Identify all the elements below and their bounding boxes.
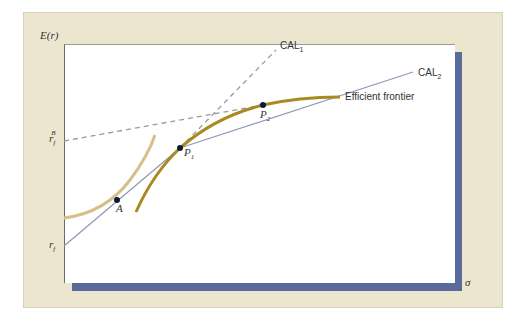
rfb-label: rfB bbox=[49, 131, 60, 147]
x-axis-label: σ bbox=[465, 276, 470, 288]
cal2-line bbox=[64, 148, 180, 246]
cal2-upper-line bbox=[180, 72, 413, 148]
frontier-label: Efficient frontier bbox=[345, 91, 414, 102]
point-p1-label: P1 bbox=[184, 146, 194, 161]
efficient-frontier bbox=[136, 97, 340, 212]
y-axis-label: E(r) bbox=[40, 29, 58, 41]
point-p2-label: P2 bbox=[260, 108, 270, 123]
point-p1 bbox=[177, 145, 183, 151]
light-curve bbox=[64, 135, 155, 218]
cal1-label: CAL1 bbox=[280, 40, 303, 53]
cal2-label: CAL2 bbox=[418, 67, 441, 80]
rfb-dashed-line bbox=[64, 105, 263, 141]
chart-svg bbox=[0, 0, 527, 323]
point-a-label: A bbox=[116, 202, 123, 214]
rf-label: rf bbox=[49, 238, 55, 253]
cal1-dashed-line bbox=[180, 50, 276, 148]
